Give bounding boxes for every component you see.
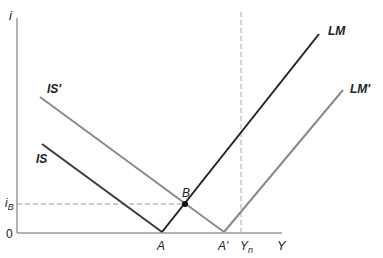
LM-prime-label: LM': [350, 82, 371, 96]
IS-prime-label: IS': [47, 82, 62, 96]
IS-label: IS: [36, 152, 47, 166]
A-label: A: [156, 239, 165, 253]
LM-label: LM: [328, 24, 346, 38]
iB-label: iB: [5, 196, 14, 212]
IS-curve: [42, 144, 162, 232]
A-prime-label: A': [217, 239, 229, 253]
IS-prime-curve: [40, 97, 224, 232]
islm-diagram: i Y 0 iB IS' IS LM LM' B A A' Yn: [0, 0, 383, 258]
Yn-label: Yn: [240, 239, 253, 255]
LM-prime-curve: [224, 90, 343, 232]
y-axis-label: i: [9, 8, 13, 23]
point-B-label: B: [182, 186, 190, 200]
x-axis-label: Y: [277, 238, 287, 253]
point-B-marker: [182, 201, 188, 207]
zero-label: 0: [6, 227, 13, 241]
